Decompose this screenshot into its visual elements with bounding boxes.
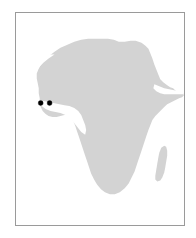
madagascar-shape [155, 146, 167, 182]
data-point-site-1[interactable] [38, 101, 43, 106]
map-frame [15, 12, 185, 226]
data-point-site-2[interactable] [47, 101, 52, 106]
map-canvas [16, 13, 184, 225]
africa-map-svg [16, 13, 184, 225]
figure-root [0, 0, 196, 238]
